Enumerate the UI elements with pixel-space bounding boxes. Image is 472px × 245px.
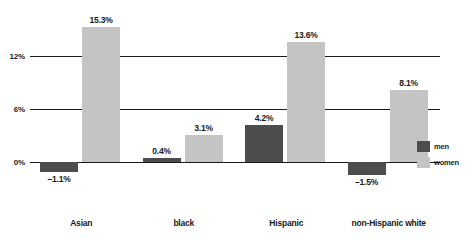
legend-item-men: men [417, 141, 459, 152]
bar-men-non-hispanic-white: –1.5% [348, 162, 386, 175]
x-axis-category-label: Hispanic [235, 218, 338, 228]
bar-value-label: 8.1% [399, 78, 418, 88]
bar-group: 0.4%3.1% [133, 10, 236, 185]
bar-value-label: 4.2% [255, 113, 274, 123]
bar-men-asian: –1.1% [40, 162, 78, 172]
legend-swatch-women [417, 157, 430, 168]
legend-swatch-men [417, 141, 430, 152]
bar-value-label: 3.1% [194, 123, 213, 133]
x-axis-labels: AsianblackHispanicnon-Hispanic white [30, 218, 440, 228]
x-axis-category-label: non-Hispanic white [338, 218, 441, 228]
bar-group: –1.1%15.3% [30, 10, 133, 185]
bar-women-asian: 15.3% [82, 27, 120, 162]
bar-value-label: 0.4% [152, 146, 171, 156]
y-axis-tick-label: 6% [14, 104, 25, 113]
bar-value-label: –1.5% [355, 177, 378, 187]
y-axis-tick-label: 0% [14, 158, 25, 167]
x-axis-category-label: black [133, 218, 236, 228]
bar-value-label: 15.3% [89, 15, 112, 25]
bar-women-black: 3.1% [185, 135, 223, 162]
legend-label: men [434, 142, 449, 151]
plot-area: 12%6%0% –1.1%15.3%0.4%3.1%4.2%13.6%–1.5%… [30, 10, 440, 185]
chart-legend: menwomen [417, 141, 459, 173]
bar-value-label: –1.1% [47, 174, 70, 184]
bar-groups: –1.1%15.3%0.4%3.1%4.2%13.6%–1.5%8.1% [30, 10, 440, 185]
x-axis-category-label: Asian [30, 218, 133, 228]
bar-women-hispanic: 13.6% [287, 42, 325, 162]
bar-value-label: 13.6% [294, 30, 317, 40]
legend-item-women: women [417, 157, 459, 168]
y-axis-tick-label: 12% [10, 51, 25, 60]
bar-men-hispanic: 4.2% [245, 125, 283, 162]
bar-men-black: 0.4% [143, 158, 181, 162]
legend-label: women [434, 158, 459, 167]
bar-chart: 12%6%0% –1.1%15.3%0.4%3.1%4.2%13.6%–1.5%… [0, 0, 472, 245]
bar-group: 4.2%13.6% [235, 10, 338, 185]
